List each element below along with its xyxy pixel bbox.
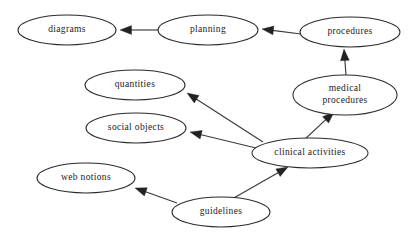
edge-shaft: [145, 192, 177, 203]
node-diagrams[interactable]: diagrams: [18, 15, 116, 45]
arrowhead-icon: [190, 130, 202, 139]
arrowhead-icon: [276, 167, 288, 177]
edge-clinical-activities-to-social-objects: [190, 130, 256, 148]
edge-medical-procedures-to-procedures: [340, 49, 349, 75]
edge-shaft: [232, 172, 279, 199]
edge-clinical-activities-to-medical-procedures: [303, 112, 334, 141]
node-label: quantities: [115, 79, 155, 89]
node-label-line: medical: [329, 83, 362, 93]
node-label: diagrams: [48, 24, 86, 34]
arrowhead-icon: [262, 26, 274, 35]
node-label: medicalprocedures: [322, 83, 367, 105]
node-label: web notions: [61, 172, 111, 182]
node-planning[interactable]: planning: [158, 15, 258, 45]
node-label-line: clinical activities: [274, 147, 345, 157]
node-medical-procedures[interactable]: medicalprocedures: [293, 75, 397, 115]
node-label-line: procedures: [322, 95, 367, 105]
node-label: procedures: [327, 26, 372, 36]
edge-shaft: [272, 30, 301, 34]
edge-guidelines-to-web-notions: [135, 188, 177, 203]
edge-shaft: [345, 59, 346, 75]
node-label-line: procedures: [327, 26, 372, 36]
node-label-line: planning: [190, 24, 226, 34]
node-procedures[interactable]: procedures: [300, 17, 400, 47]
node-quantities[interactable]: quantities: [85, 70, 185, 100]
diagram-canvas: diagramsplanningproceduresmedicalprocedu…: [0, 0, 415, 239]
edge-guidelines-to-clinical-activities: [232, 167, 288, 199]
edge-shaft: [200, 134, 256, 148]
arrowhead-icon: [120, 26, 132, 35]
arrowhead-icon: [187, 93, 199, 103]
graph-svg: diagramsplanningproceduresmedicalprocedu…: [0, 0, 415, 239]
node-social-objects[interactable]: social objects: [86, 113, 186, 143]
edge-procedures-to-planning: [262, 26, 301, 35]
node-guidelines[interactable]: guidelines: [172, 197, 270, 227]
arrowhead-icon: [135, 188, 147, 196]
node-label-line: quantities: [115, 79, 155, 89]
node-label: social objects: [108, 122, 164, 132]
node-label-line: web notions: [61, 172, 111, 182]
arrowhead-icon: [340, 49, 349, 61]
node-web-notions[interactable]: web notions: [37, 163, 135, 193]
node-clinical-activities[interactable]: clinical activities: [252, 138, 368, 168]
node-label: clinical activities: [274, 147, 345, 157]
node-label-line: guidelines: [200, 206, 243, 216]
node-label-line: diagrams: [48, 24, 86, 34]
node-label: planning: [190, 24, 226, 34]
node-label: guidelines: [200, 206, 243, 216]
node-label-line: social objects: [108, 122, 164, 132]
edge-planning-to-diagrams: [120, 26, 158, 35]
node-layer: diagramsplanningproceduresmedicalprocedu…: [18, 15, 400, 227]
